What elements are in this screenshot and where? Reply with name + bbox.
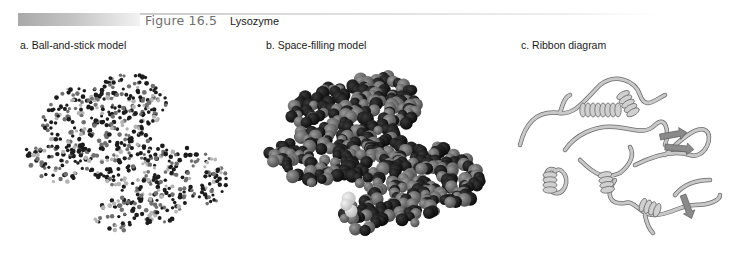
figure-number: Figure 16.5 bbox=[145, 13, 217, 28]
figure-title: Lysozyme bbox=[230, 15, 279, 27]
header-bar bbox=[18, 13, 140, 26]
panel-label-c: c. Ribbon diagram bbox=[521, 39, 606, 51]
panel-label-a: a. Ball-and-stick model bbox=[20, 39, 126, 51]
ribbon-diagram-image bbox=[505, 55, 733, 260]
ball-and-stick-model-image bbox=[10, 55, 250, 260]
panel-label-b: b. Space-filling model bbox=[266, 39, 366, 51]
space-filling-model-image bbox=[258, 55, 503, 260]
